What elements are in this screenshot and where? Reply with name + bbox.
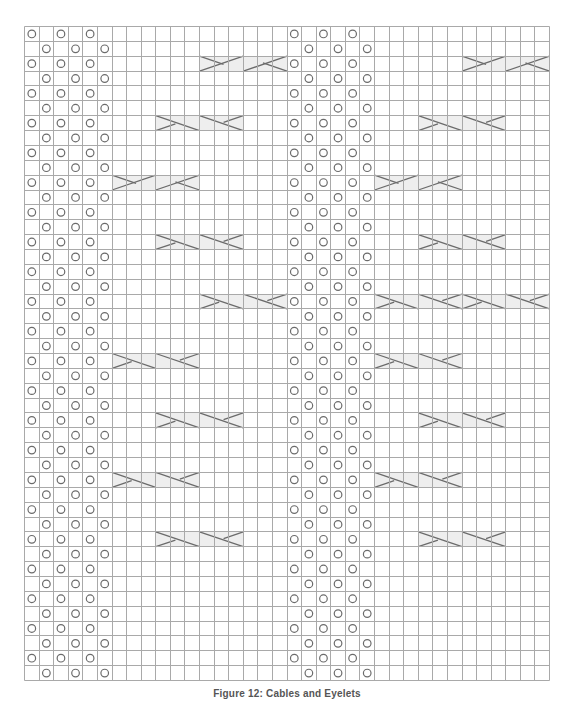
yarn-over-icon: [290, 357, 298, 365]
yarn-over-icon: [363, 550, 371, 558]
yarn-over-icon: [363, 45, 371, 53]
yarn-over-icon: [86, 327, 94, 335]
yarn-over-icon: [320, 387, 328, 395]
yarn-over-icon: [363, 640, 371, 648]
yarn-over-icon: [72, 431, 80, 439]
yarn-over-icon: [28, 149, 36, 157]
yarn-over-icon: [320, 446, 328, 454]
yarn-over-icon: [57, 268, 65, 276]
left-cross-cable-icon: [112, 354, 156, 369]
yarn-over-icon: [334, 75, 342, 83]
yarn-over-icon: [43, 313, 51, 321]
yarn-over-icon: [349, 417, 357, 425]
yarn-over-icon: [305, 640, 313, 648]
yarn-over-icon: [72, 461, 80, 469]
yarn-over-icon: [28, 506, 36, 514]
yarn-over-icon: [349, 654, 357, 662]
yarn-over-icon: [43, 431, 51, 439]
yarn-over-icon: [72, 342, 80, 350]
yarn-over-icon: [290, 90, 298, 98]
yarn-over-icon: [349, 595, 357, 603]
yarn-over-icon: [290, 595, 298, 603]
yarn-over-icon: [86, 90, 94, 98]
left-cross-cable-icon: [375, 294, 419, 309]
yarn-over-icon: [334, 402, 342, 410]
left-cross-cable-icon: [418, 294, 462, 309]
right-cross-cable-icon: [243, 56, 287, 71]
yarn-over-icon: [86, 506, 94, 514]
yarn-over-icon: [320, 268, 328, 276]
yarn-over-icon: [101, 342, 109, 350]
yarn-over-icon: [320, 298, 328, 306]
yarn-over-icon: [290, 446, 298, 454]
yarn-over-icon: [349, 179, 357, 187]
yarn-over-icon: [320, 327, 328, 335]
yarn-over-icon: [57, 387, 65, 395]
yarn-over-icon: [72, 669, 80, 677]
yarn-over-icon: [320, 90, 328, 98]
left-cross-cable-icon: [200, 235, 244, 250]
yarn-over-icon: [101, 402, 109, 410]
yarn-over-icon: [334, 164, 342, 172]
yarn-over-icon: [86, 208, 94, 216]
yarn-over-icon: [290, 387, 298, 395]
yarn-over-icon: [363, 75, 371, 83]
yarn-over-icon: [305, 550, 313, 558]
yarn-over-icon: [363, 669, 371, 677]
yarn-over-icon: [349, 357, 357, 365]
yarn-over-icon: [349, 119, 357, 127]
left-cross-cable-icon: [418, 354, 462, 369]
yarn-over-icon: [334, 461, 342, 469]
yarn-over-icon: [320, 565, 328, 573]
yarn-over-icon: [290, 417, 298, 425]
yarn-over-icon: [86, 298, 94, 306]
yarn-over-icon: [101, 75, 109, 83]
yarn-over-icon: [86, 179, 94, 187]
yarn-over-icon: [334, 134, 342, 142]
left-cross-cable-icon: [375, 354, 419, 369]
yarn-over-icon: [305, 283, 313, 291]
yarn-over-icon: [43, 372, 51, 380]
yarn-over-icon: [290, 60, 298, 68]
yarn-over-icon: [320, 654, 328, 662]
yarn-over-icon: [57, 119, 65, 127]
yarn-over-icon: [305, 223, 313, 231]
yarn-over-icon: [305, 491, 313, 499]
yarn-over-icon: [101, 164, 109, 172]
yarn-over-icon: [363, 104, 371, 112]
yarn-over-icon: [86, 417, 94, 425]
left-cross-cable-icon: [418, 532, 462, 547]
yarn-over-icon: [101, 283, 109, 291]
yarn-over-icon: [305, 45, 313, 53]
yarn-over-icon: [72, 194, 80, 202]
yarn-over-icon: [101, 253, 109, 261]
yarn-over-icon: [57, 149, 65, 157]
yarn-over-icon: [86, 595, 94, 603]
yarn-over-icon: [101, 194, 109, 202]
yarn-over-icon: [334, 45, 342, 53]
yarn-over-icon: [101, 640, 109, 648]
yarn-over-icon: [320, 506, 328, 514]
yarn-over-icon: [363, 402, 371, 410]
yarn-over-icon: [43, 610, 51, 618]
yarn-over-icon: [101, 313, 109, 321]
yarn-over-icon: [101, 104, 109, 112]
left-cross-cable-icon: [375, 472, 419, 487]
yarn-over-icon: [320, 357, 328, 365]
yarn-over-icon: [320, 208, 328, 216]
yarn-over-icon: [57, 298, 65, 306]
right-cross-cable-icon: [112, 175, 156, 190]
yarn-over-icon: [72, 313, 80, 321]
yarn-over-icon: [290, 268, 298, 276]
yarn-over-icon: [363, 461, 371, 469]
yarn-over-icon: [43, 253, 51, 261]
yarn-over-icon: [86, 387, 94, 395]
yarn-over-icon: [305, 164, 313, 172]
yarn-over-icon: [334, 580, 342, 588]
yarn-over-icon: [101, 580, 109, 588]
yarn-over-icon: [101, 610, 109, 618]
yarn-over-icon: [290, 119, 298, 127]
yarn-over-icon: [28, 446, 36, 454]
yarn-over-icon: [43, 461, 51, 469]
yarn-over-icon: [72, 164, 80, 172]
